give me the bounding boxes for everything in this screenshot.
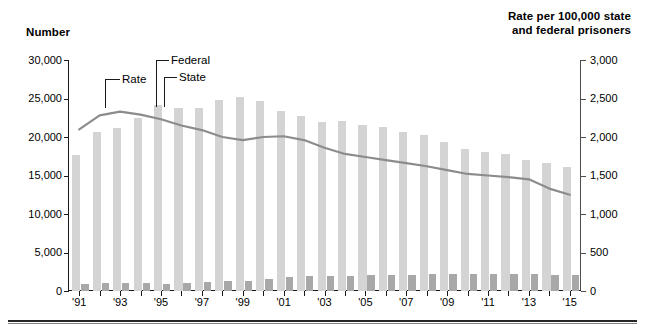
x-tick-label: '91 [72, 296, 86, 308]
annotation-federal: Federal [171, 54, 210, 66]
x-tick-mark [386, 291, 387, 296]
x-tick-label: '05 [358, 296, 372, 308]
x-tick-label: '09 [440, 296, 454, 308]
x-tick-label: '97 [195, 296, 209, 308]
bottom-rule-shadow [8, 323, 637, 324]
annotation-state: State [179, 71, 206, 83]
x-tick-label: '13 [522, 296, 536, 308]
annotation-rate: Rate [122, 73, 146, 85]
left-tick-mark [64, 291, 69, 292]
x-tick-mark [263, 291, 264, 296]
x-tick-mark [100, 291, 101, 296]
x-tick-mark [222, 291, 223, 296]
left-tick-label: 10,000 [10, 209, 62, 220]
right-axis-title: Rate per 100,000 state and federal priso… [508, 10, 631, 37]
right-tick-mark [581, 60, 586, 61]
left-axis-title: Number [26, 26, 70, 40]
plot-area [69, 60, 580, 291]
right-tick-label: 3,000 [590, 55, 638, 66]
right-tick-label: 500 [590, 247, 638, 258]
right-tick-label: 0 [590, 286, 638, 297]
left-tick-label: 30,000 [10, 55, 62, 66]
right-tick-label: 1,000 [590, 209, 638, 220]
x-tick-mark [304, 291, 305, 296]
x-tick-mark [468, 291, 469, 296]
right-tick-mark [581, 253, 586, 254]
left-tick-label: 0 [10, 286, 62, 297]
x-tick-label: '95 [154, 296, 168, 308]
right-tick-mark [581, 137, 586, 138]
x-tick-label: '01 [276, 296, 290, 308]
x-tick-mark [345, 291, 346, 296]
x-tick-label: '07 [399, 296, 413, 308]
x-tick-label: '93 [113, 296, 127, 308]
rate-leader-line [105, 79, 120, 108]
rate-line [69, 60, 580, 291]
x-tick-label: '03 [317, 296, 331, 308]
x-tick-label: '99 [236, 296, 250, 308]
right-tick-label: 2,500 [590, 93, 638, 104]
x-tick-mark [141, 291, 142, 296]
right-tick-mark [581, 176, 586, 177]
right-tick-label: 1,500 [590, 170, 638, 181]
right-tick-mark [581, 214, 586, 215]
left-tick-label: 15,000 [10, 170, 62, 181]
left-tick-label: 20,000 [10, 132, 62, 143]
right-tick-label: 2,000 [590, 132, 638, 143]
chart-root: Number Rate per 100,000 state and federa… [0, 0, 645, 331]
right-tick-mark [581, 291, 586, 292]
right-tick-mark [581, 99, 586, 100]
left-tick-label: 25,000 [10, 93, 62, 104]
x-tick-mark [549, 291, 550, 296]
x-tick-mark [427, 291, 428, 296]
state-leader-line [164, 77, 177, 107]
x-tick-mark [181, 291, 182, 296]
x-tick-label: '11 [481, 296, 495, 308]
left-tick-label: 5,000 [10, 247, 62, 258]
x-tick-label: '15 [563, 296, 577, 308]
x-tick-mark [508, 291, 509, 296]
